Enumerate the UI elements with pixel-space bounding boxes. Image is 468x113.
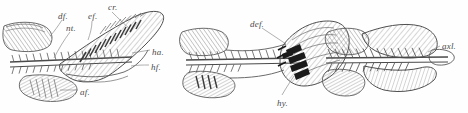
label-hf: hf. — [151, 63, 161, 72]
label-nt: nt. — [66, 24, 76, 33]
p3-upper-body — [362, 24, 437, 58]
label-ef: ef. — [88, 12, 97, 21]
dorsal-fin-lobe — [3, 22, 52, 51]
figure-drawing — [0, 0, 468, 113]
caudal-skeleton-figure: df. nt. ef. cr. ha. hf. af. def. hy. axl… — [0, 0, 468, 113]
p2-epaxial-lobe — [180, 28, 229, 55]
label-cr: cr. — [108, 3, 117, 12]
p3-epaxial-lobe — [325, 28, 369, 55]
anal-fin-lobe — [19, 75, 77, 102]
label-ha: ha. — [152, 48, 164, 57]
epaxial-caudal-lobe — [59, 11, 163, 82]
label-af: af. — [80, 88, 90, 97]
p3-lower-body — [364, 66, 437, 92]
label-def: def. — [250, 20, 264, 29]
label-df: df. — [58, 12, 68, 21]
label-axl: axl. — [442, 42, 456, 51]
p2-body-outline — [226, 44, 286, 78]
label-hy: hy. — [277, 99, 288, 108]
p2-hypaxial-lobe — [183, 71, 235, 98]
p3-hypaxial-lobe — [322, 69, 364, 96]
